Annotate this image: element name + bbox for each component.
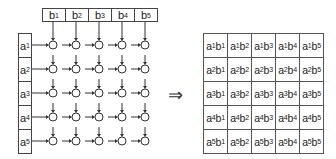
- processing-node: [118, 89, 126, 97]
- product-cell: a2b2: [227, 57, 252, 82]
- processing-node: [95, 113, 103, 121]
- processing-node: [141, 89, 149, 97]
- processing-node: [141, 41, 149, 49]
- product-cell: a2b1: [203, 57, 228, 82]
- processing-node: [72, 89, 80, 97]
- processing-node: [49, 89, 57, 97]
- product-cell: a4b1: [203, 105, 228, 130]
- product-cell: a1b4: [275, 33, 300, 58]
- product-cell: a5b5: [299, 129, 324, 154]
- processing-node: [95, 65, 103, 73]
- processing-node: [49, 113, 57, 121]
- processing-node: [118, 137, 126, 145]
- processing-node: [95, 137, 103, 145]
- product-cell: a5b4: [275, 129, 300, 154]
- product-cell: a3b2: [227, 81, 252, 106]
- product-cell: a4b5: [299, 105, 324, 130]
- implies-arrow-icon: ⇒: [168, 84, 183, 106]
- processing-node: [72, 113, 80, 121]
- processing-node: [49, 65, 57, 73]
- product-cell: a3b3: [251, 81, 276, 106]
- processing-node: [72, 41, 80, 49]
- product-cell: a2b4: [275, 57, 300, 82]
- product-cell: a4b4: [275, 105, 300, 130]
- product-cell: a2b3: [251, 57, 276, 82]
- product-cell: a1b5: [299, 33, 324, 58]
- product-cell: a4b2: [227, 105, 252, 130]
- product-cell: a3b1: [203, 81, 228, 106]
- processing-node: [49, 137, 57, 145]
- product-cell: a4b3: [251, 105, 276, 130]
- processing-node: [118, 41, 126, 49]
- processing-node: [141, 65, 149, 73]
- product-cell: a5b3: [251, 129, 276, 154]
- product-cell: a1b2: [227, 33, 252, 58]
- product-cell: a5b1: [203, 129, 228, 154]
- processing-node: [118, 65, 126, 73]
- processing-node: [49, 41, 57, 49]
- processing-node: [141, 137, 149, 145]
- product-cell: a3b4: [275, 81, 300, 106]
- product-cell: a2b5: [299, 57, 324, 82]
- product-cell: a3b5: [299, 81, 324, 106]
- processing-node: [95, 41, 103, 49]
- processing-node: [118, 113, 126, 121]
- processing-node: [141, 113, 149, 121]
- processing-node: [95, 89, 103, 97]
- processing-node: [72, 65, 80, 73]
- product-cell: a1b1: [203, 33, 228, 58]
- product-cell: a1b3: [251, 33, 276, 58]
- processing-node: [72, 137, 80, 145]
- product-cell: a5b2: [227, 129, 252, 154]
